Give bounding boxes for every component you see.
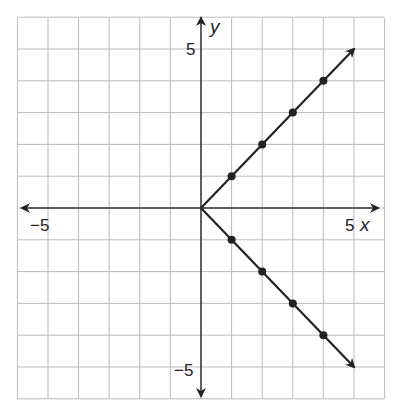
x-axis-label: x — [359, 214, 371, 235]
data-point — [228, 172, 236, 180]
data-point — [319, 331, 327, 339]
ray — [201, 208, 354, 367]
data-point — [228, 236, 236, 244]
data-point — [289, 109, 297, 117]
x-tick-neg5: −5 — [30, 216, 49, 235]
ray — [201, 49, 354, 208]
y-tick-neg5: −5 — [174, 361, 193, 380]
data-point — [319, 77, 327, 85]
data-point — [289, 299, 297, 307]
x-tick-pos5: 5 — [345, 216, 354, 235]
data-point — [258, 140, 266, 148]
coordinate-plane: −5 5 x 5 −5 y — [0, 0, 397, 405]
data-point — [258, 268, 266, 276]
y-tick-pos5: 5 — [186, 40, 195, 59]
y-axis-label: y — [208, 16, 221, 37]
